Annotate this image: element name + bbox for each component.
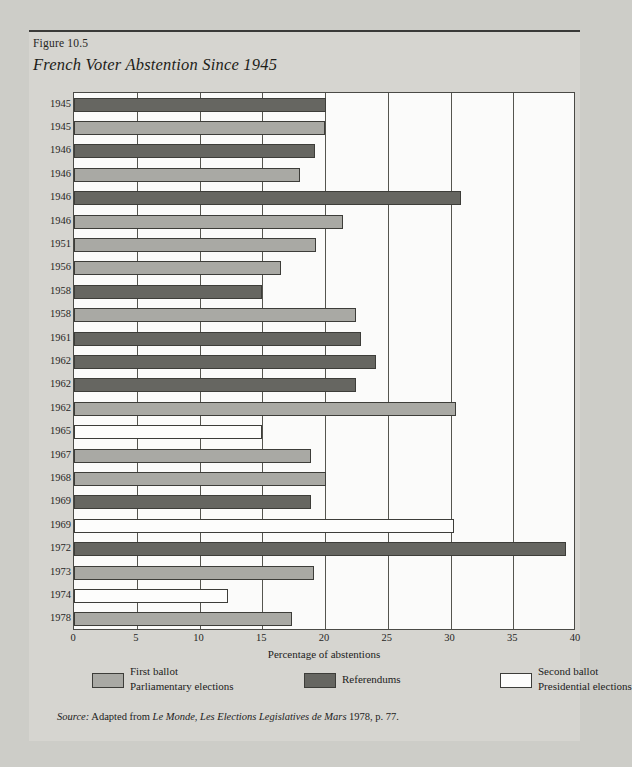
bar xyxy=(74,519,454,533)
x-tick-label: 30 xyxy=(444,632,455,643)
legend-label: First ballotParliamentary elections xyxy=(130,664,234,694)
source-note: Source: Adapted from Le Monde, Les Elect… xyxy=(57,711,399,722)
x-tick-label: 0 xyxy=(70,632,75,643)
y-tick-label: 1962 xyxy=(34,379,71,390)
legend-label: Referendums xyxy=(342,672,401,687)
bar xyxy=(74,238,316,252)
bar xyxy=(74,285,262,299)
y-tick-label: 1967 xyxy=(34,450,71,461)
bar xyxy=(74,168,300,182)
legend-swatch-white xyxy=(500,673,532,688)
bar xyxy=(74,98,326,112)
bar xyxy=(74,495,311,509)
y-tick-label: 1969 xyxy=(34,496,71,507)
bar xyxy=(74,332,361,346)
y-tick-label: 1946 xyxy=(34,169,71,180)
bar xyxy=(74,144,315,158)
x-tick-label: 20 xyxy=(319,632,330,643)
y-tick-label: 1972 xyxy=(34,543,71,554)
y-tick-label: 1969 xyxy=(34,520,71,531)
x-tick-label: 10 xyxy=(193,632,204,643)
bar xyxy=(74,378,356,392)
y-tick-label: 1965 xyxy=(34,426,71,437)
bar xyxy=(74,542,566,556)
legend-swatch-dark xyxy=(304,673,336,688)
y-tick-label: 1958 xyxy=(34,286,71,297)
y-tick-label: 1961 xyxy=(34,333,71,344)
bar xyxy=(74,425,262,439)
source-after: 1978, p. 77. xyxy=(346,711,399,722)
plot-area xyxy=(73,92,575,630)
y-tick-label: 1968 xyxy=(34,473,71,484)
figure-card: Figure 10.5 French Voter Abstention Sinc… xyxy=(29,30,580,741)
y-tick-label: 1946 xyxy=(34,192,71,203)
y-tick-label: 1973 xyxy=(34,567,71,578)
bar xyxy=(74,612,292,626)
bar xyxy=(74,215,343,229)
y-tick-label: 1974 xyxy=(34,590,71,601)
bar xyxy=(74,402,456,416)
y-tick-label: 1962 xyxy=(34,356,71,367)
x-tick-label: 40 xyxy=(570,632,581,643)
bar xyxy=(74,355,376,369)
bar xyxy=(74,449,311,463)
x-tick-label: 35 xyxy=(507,632,518,643)
legend-swatch-light xyxy=(92,673,124,688)
legend-label: Second ballotPresidential elections xyxy=(538,664,632,694)
source-before: Adapted from xyxy=(89,711,152,722)
bar xyxy=(74,589,228,603)
top-divider xyxy=(29,30,580,32)
x-axis-ticks: 0510152025303540 xyxy=(73,632,575,648)
figure-title: French Voter Abstention Since 1945 xyxy=(33,55,277,75)
bar xyxy=(74,308,356,322)
y-tick-label: 1946 xyxy=(34,216,71,227)
bar xyxy=(74,566,314,580)
y-tick-label: 1958 xyxy=(34,309,71,320)
chart-plot-wrapper: 1945194519461946194619461951195619581958… xyxy=(34,92,576,658)
bar xyxy=(74,261,281,275)
y-tick-label: 1945 xyxy=(34,122,71,133)
y-tick-label: 1962 xyxy=(34,403,71,414)
y-tick-label: 1946 xyxy=(34,145,71,156)
x-tick-label: 5 xyxy=(133,632,138,643)
y-tick-label: 1978 xyxy=(34,613,71,624)
source-citation: Le Monde, Les Elections Legislatives de … xyxy=(153,711,347,722)
source-label: Source: xyxy=(57,711,89,722)
bar xyxy=(74,472,326,486)
y-tick-label: 1956 xyxy=(34,262,71,273)
figure-number: Figure 10.5 xyxy=(33,37,88,49)
x-axis-title: Percentage of abstentions xyxy=(73,648,575,660)
y-tick-label: 1945 xyxy=(34,99,71,110)
y-axis-labels: 1945194519461946194619461951195619581958… xyxy=(34,92,73,630)
x-tick-label: 15 xyxy=(256,632,267,643)
bar xyxy=(74,191,461,205)
bar xyxy=(74,121,325,135)
x-tick-label: 25 xyxy=(382,632,393,643)
chart-legend: First ballotParliamentary electionsRefer… xyxy=(34,664,576,700)
y-tick-label: 1951 xyxy=(34,239,71,250)
